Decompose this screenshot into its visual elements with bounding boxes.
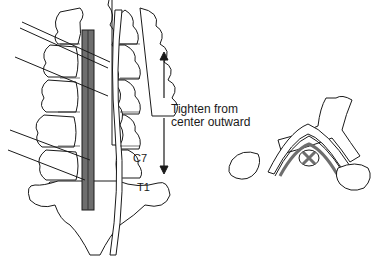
- right-vertebral-body: [336, 164, 370, 190]
- left-vertebral-body: [229, 152, 260, 179]
- left-lateral-masses: [36, 8, 83, 194]
- axial-section-view: [229, 96, 370, 190]
- vertebra-label-t1: T1: [137, 181, 150, 194]
- vertebra-label-c7: C7: [133, 152, 147, 165]
- spine-illustration: [0, 0, 375, 260]
- instruction-label-line2: center outward: [171, 116, 250, 129]
- posterior-spine-view: [8, 0, 178, 255]
